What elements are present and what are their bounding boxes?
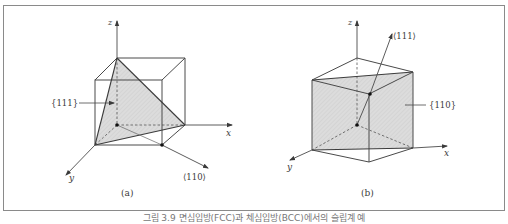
origin-dot-b (355, 123, 359, 127)
y-axis-a (66, 145, 95, 175)
panel-a: z x y {111} ⟨110⟩ (a) (51, 18, 232, 198)
x-axis-label-b: x (444, 148, 449, 158)
panel-b: z x y {110} ⟨111⟩ (b) (286, 18, 456, 198)
plane-label-b: {110} (429, 100, 456, 110)
origin-dot-a (115, 123, 119, 127)
direction-label-b: ⟨111⟩ (393, 31, 416, 41)
body-center-dot-b (368, 92, 372, 96)
panel-label-a: (a) (121, 188, 133, 198)
figure-caption: 그림 3.9 면심입방(FCC)과 체심입방(BCC)에서의 슬립계 예 (0, 213, 508, 224)
direction-110-arrow (162, 145, 208, 168)
x-axis-b (413, 146, 447, 148)
figure-canvas: z x y {111} ⟨110⟩ (a) (0, 0, 508, 224)
slip-system-figure: z x y {111} ⟨110⟩ (a) (0, 0, 508, 224)
corner-dot-a (160, 143, 164, 147)
plane-label-a: {111} (51, 98, 78, 108)
y-axis-label-b: y (286, 162, 293, 172)
y-axis-label-a: y (68, 173, 75, 183)
direction-label-a: ⟨110⟩ (183, 172, 206, 182)
z-axis-label-a: z (107, 18, 113, 27)
x-axis-label-a: x (226, 128, 231, 138)
z-axis-label-b: z (347, 18, 353, 27)
panel-label-b: (b) (361, 188, 374, 198)
plane-110-leader-dot (405, 104, 407, 106)
y-axis-b (290, 150, 312, 160)
